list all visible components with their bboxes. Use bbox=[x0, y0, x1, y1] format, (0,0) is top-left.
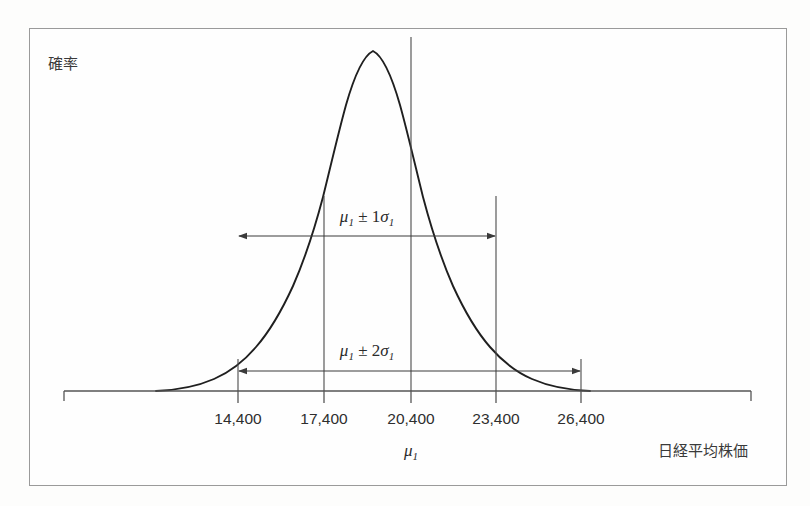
one-sigma-plusminus: ± bbox=[354, 207, 372, 226]
one-sigma-sigma-subscript: 1 bbox=[389, 216, 395, 228]
tick-label-14400: 14,400 bbox=[214, 410, 262, 427]
center-mu-subscript: 1 bbox=[413, 450, 419, 462]
normal-distribution-chart: 確率 bbox=[30, 29, 786, 485]
one-sigma-annotation-label: μ1 ± 1σ1 bbox=[339, 207, 394, 228]
two-sigma-coefficient: 2 bbox=[372, 341, 381, 360]
two-sigma-plusminus: ± bbox=[354, 341, 372, 360]
tick-label-26400: 26,400 bbox=[557, 410, 605, 427]
two-sigma-sigma-subscript: 1 bbox=[389, 350, 395, 362]
tick-label-23400: 23,400 bbox=[472, 410, 520, 427]
caption-remnant bbox=[46, 495, 306, 505]
tick-label-20400: 20,400 bbox=[387, 410, 435, 427]
tick-label-17400: 17,400 bbox=[300, 410, 348, 427]
two-sigma-annotation-label: μ1 ± 2σ1 bbox=[339, 341, 394, 362]
figure-frame: 確率 bbox=[29, 28, 787, 486]
center-mu-label: μ1 bbox=[403, 441, 418, 462]
two-sigma-mu: μ bbox=[339, 341, 349, 360]
center-mu-symbol: μ bbox=[403, 441, 413, 460]
one-sigma-mu: μ bbox=[339, 207, 349, 226]
y-axis-label: 確率 bbox=[48, 55, 78, 72]
figure-page: 確率 bbox=[0, 0, 810, 506]
x-axis-label: 日経平均株価 bbox=[658, 442, 748, 459]
one-sigma-coefficient: 1 bbox=[372, 207, 381, 226]
